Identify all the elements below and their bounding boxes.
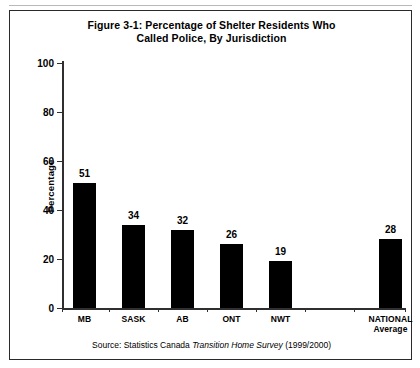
bar-slot: 19	[269, 63, 292, 308]
bar-value-label: 51	[73, 168, 96, 179]
bar-slot: 32	[171, 63, 194, 308]
x-axis-tick	[305, 308, 306, 312]
bar-slot: 51	[73, 63, 96, 308]
bar-value-label: 28	[379, 224, 402, 235]
bar-value-label: 34	[122, 210, 145, 221]
source-note: Source: Statistics Canada Transition Hom…	[10, 340, 413, 351]
x-axis-tick	[109, 308, 110, 312]
x-axis-tick	[354, 308, 355, 312]
bar	[73, 183, 96, 308]
chart-title-line-2: Called Police, By Jurisdiction	[10, 32, 413, 45]
x-axis-tick	[62, 308, 63, 312]
y-axis-tick-label: 80	[43, 107, 54, 118]
category-label-main: ONT	[222, 314, 240, 324]
bar-value-label: 19	[269, 246, 292, 257]
x-axis-tick	[256, 308, 257, 312]
category-label-main: AB	[176, 314, 188, 324]
bar-slot: 28	[379, 63, 402, 308]
category-label-main: SASK	[121, 314, 145, 324]
y-axis-tick-label: 0	[48, 303, 54, 314]
bar-value-label: 32	[171, 215, 194, 226]
bar	[269, 261, 292, 308]
bar	[379, 239, 402, 308]
bar	[220, 244, 243, 308]
category-label-main: NWT	[271, 314, 291, 324]
x-axis-tick	[158, 308, 159, 312]
source-publication-title: Transition Home Survey	[192, 340, 283, 350]
plot-area: Percentage 020406080100 513432261928 MBS…	[62, 63, 405, 308]
x-axis-tick	[207, 308, 208, 312]
chart-title-line-1: Figure 3-1: Percentage of Shelter Reside…	[88, 19, 336, 31]
y-axis-tick-label: 100	[37, 58, 54, 69]
bar-slot: 34	[122, 63, 145, 308]
y-axis-tick-label: 20	[43, 254, 54, 265]
figure-frame: Figure 3-1: Percentage of Shelter Reside…	[9, 10, 412, 360]
x-axis-category-label: NWT	[251, 314, 311, 324]
source-suffix: (1999/2000)	[285, 340, 331, 350]
bar	[171, 230, 194, 308]
y-axis-tick-label: 40	[43, 205, 54, 216]
bar-slot: 26	[220, 63, 243, 308]
category-label-main: MB	[78, 314, 91, 324]
bar-series: 513432261928	[62, 63, 405, 308]
y-axis-tick-label: 60	[43, 156, 54, 167]
chart-title: Figure 3-1: Percentage of Shelter Reside…	[10, 19, 413, 45]
x-axis-tick	[405, 308, 406, 312]
bar-value-label: 26	[220, 229, 243, 240]
x-axis-category-label: NATIONALAverage	[361, 314, 420, 334]
bar	[122, 225, 145, 308]
category-label-main: NATIONAL	[368, 314, 412, 324]
category-label-sub: Average	[361, 324, 420, 334]
source-prefix: Source: Statistics Canada	[92, 340, 190, 350]
scan-artifact-line	[9, 5, 412, 6]
